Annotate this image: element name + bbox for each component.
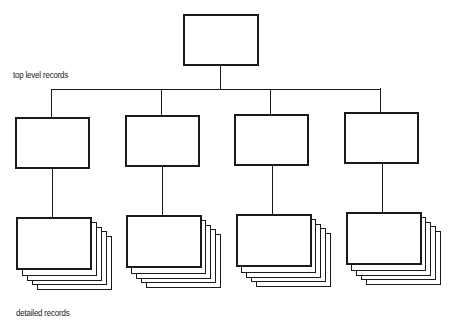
horizontal-connector (51, 89, 381, 90)
top-level-record-box-1 (15, 117, 90, 169)
detail-record-front (126, 215, 202, 268)
detail-connector-2 (162, 166, 163, 216)
top-level-record-box-3 (234, 114, 309, 166)
top-level-records-label: top level records (13, 70, 68, 80)
detailed-records-label: detailed records (16, 308, 70, 318)
branch-connector-1 (51, 89, 52, 118)
detail-connector-3 (272, 165, 273, 215)
detail-record-front (236, 214, 312, 267)
detail-connector-4 (382, 163, 383, 213)
branch-connector-4 (380, 88, 381, 114)
top-level-record-box-4 (344, 112, 419, 164)
detail-connector-1 (52, 168, 53, 218)
detail-record-front (346, 212, 422, 265)
top-level-record-box-2 (125, 115, 200, 167)
root-record-box (183, 14, 259, 66)
root-connector (220, 65, 221, 90)
branch-connector-2 (161, 89, 162, 117)
branch-connector-3 (270, 89, 271, 116)
detail-record-front (16, 217, 92, 270)
